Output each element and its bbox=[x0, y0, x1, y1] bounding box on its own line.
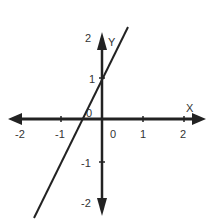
y-axis bbox=[97, 32, 107, 216]
y-axis-down-arrow-icon bbox=[97, 198, 107, 216]
x-tick-label: 1 bbox=[140, 128, 146, 140]
x-axis bbox=[8, 113, 206, 125]
y-axis-label: Y bbox=[108, 36, 116, 48]
x-tick-label: -2 bbox=[15, 128, 25, 140]
near-line-label: 0 bbox=[86, 107, 92, 119]
y-tick-label: -1 bbox=[81, 157, 91, 169]
y-tick-label: 1 bbox=[89, 73, 95, 85]
x-tick-label: 0 bbox=[110, 128, 116, 140]
x-axis-label: X bbox=[186, 102, 194, 114]
chart-canvas: X Y -2 -1 0 1 2 2 1 -1 -2 0 bbox=[0, 0, 223, 224]
y-axis-up-arrow-icon bbox=[97, 32, 107, 50]
x-axis-left-arrow-icon bbox=[8, 113, 22, 125]
y-tick-label: 2 bbox=[85, 32, 91, 44]
x-axis-right-arrow-icon bbox=[192, 113, 206, 125]
x-tick-label: -1 bbox=[55, 128, 65, 140]
x-tick-label: 2 bbox=[180, 128, 186, 140]
y-tick-label: -2 bbox=[81, 197, 91, 209]
series-line-y-2x-plus-1 bbox=[34, 27, 128, 218]
